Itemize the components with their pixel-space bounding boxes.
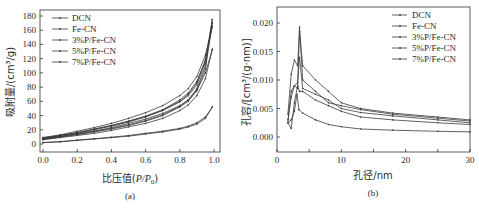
data-point <box>437 122 439 124</box>
data-point <box>76 132 78 134</box>
data-point <box>179 106 181 108</box>
x-tick-label: 0.4 <box>106 155 118 165</box>
data-point <box>328 124 330 126</box>
data-point <box>302 91 304 93</box>
data-point <box>302 112 304 114</box>
data-point <box>315 79 317 81</box>
y-tick-label: 160 <box>23 25 37 35</box>
data-point <box>179 95 181 97</box>
x-tick-label: 0.6 <box>140 155 152 165</box>
y-tick-label: 40 <box>27 111 37 121</box>
panel-b-frame <box>277 7 470 152</box>
data-point <box>294 85 296 87</box>
legend-label: Fe-CN <box>412 21 437 31</box>
data-point <box>196 123 198 125</box>
data-point <box>298 109 300 111</box>
data-point <box>205 59 207 61</box>
data-point <box>469 122 471 124</box>
data-point <box>128 120 130 122</box>
data-point <box>328 99 330 101</box>
data-point <box>315 119 317 121</box>
data-point <box>299 91 301 93</box>
legend-marker <box>59 17 61 19</box>
series-line <box>288 57 470 123</box>
data-point <box>76 130 78 132</box>
y-tick-label: 20 <box>27 125 37 135</box>
data-point <box>392 115 394 117</box>
y-tick-label: 180 <box>23 11 37 21</box>
legend-label: 7%P/Fe-CN <box>412 54 457 64</box>
data-point <box>287 122 289 124</box>
legend-marker <box>399 47 401 49</box>
series-line <box>43 27 212 138</box>
data-point <box>111 123 113 125</box>
data-point <box>294 102 296 104</box>
data-point <box>341 102 343 104</box>
data-point <box>145 118 147 120</box>
x-tick-label: 0.8 <box>174 155 186 165</box>
data-point <box>94 128 96 130</box>
panel-b-y-ticks: 0.0000.0050.0100.0150.020 <box>253 18 280 142</box>
x-tick-label: 10 <box>337 155 347 165</box>
y-tick-label: 0.005 <box>253 104 274 114</box>
data-point <box>315 99 317 101</box>
legend-label: DCN <box>412 10 432 20</box>
data-point <box>145 123 147 125</box>
data-point <box>211 22 213 24</box>
data-point <box>94 133 96 135</box>
y-tick-label: 100 <box>23 68 37 78</box>
panel-b-x-axis-title: 孔径/nm <box>353 169 392 181</box>
panel-a-legend: DCNFe-CN3%P/Fe-CN5%P/Fe-CN7%P/Fe-CN <box>52 13 117 67</box>
data-point <box>162 105 164 107</box>
data-point <box>179 101 181 103</box>
legend-label: 5%P/Fe-CN <box>72 46 117 56</box>
legend-marker <box>399 14 401 16</box>
data-point <box>188 92 190 94</box>
data-point <box>315 93 317 95</box>
data-point <box>111 136 113 138</box>
data-point <box>437 131 439 133</box>
data-point <box>437 119 439 121</box>
data-point <box>196 81 198 83</box>
data-point <box>42 137 44 139</box>
data-point <box>360 112 362 114</box>
data-point <box>341 105 343 107</box>
data-point <box>297 85 299 87</box>
data-point <box>392 113 394 115</box>
data-point <box>341 126 343 128</box>
data-point <box>188 95 190 97</box>
data-point <box>315 91 317 93</box>
legend-marker <box>59 50 61 52</box>
data-point <box>162 113 164 115</box>
data-point <box>76 135 78 137</box>
data-point <box>211 19 213 21</box>
y-tick-label: 60 <box>27 96 37 106</box>
data-point <box>290 128 292 130</box>
data-point <box>128 118 130 120</box>
data-point <box>76 133 78 135</box>
data-point <box>42 142 44 144</box>
data-point <box>196 122 198 124</box>
data-point <box>290 91 292 93</box>
data-point <box>162 118 164 120</box>
data-point <box>290 74 292 76</box>
data-point <box>299 26 301 28</box>
data-point <box>111 130 113 132</box>
series-line <box>43 27 212 138</box>
data-point <box>196 84 198 86</box>
x-tick-label: 20 <box>401 155 411 165</box>
data-point <box>76 139 78 141</box>
data-point <box>299 56 301 58</box>
legend-label: Fe-CN <box>72 24 97 34</box>
legend-marker <box>59 39 61 41</box>
data-point <box>59 141 61 143</box>
data-point <box>360 109 362 111</box>
data-point <box>360 116 362 118</box>
panel-b-y-axis-title: 孔容/[cm³/(g·nm)] <box>240 38 252 125</box>
panel-a-isotherm-chart: 020406080100120140160180 0.00.20.40.60.8… <box>4 10 220 201</box>
data-point <box>205 116 207 118</box>
data-point <box>94 130 96 132</box>
data-point <box>128 123 130 125</box>
legend-label: DCN <box>72 13 92 23</box>
data-point <box>59 134 61 136</box>
